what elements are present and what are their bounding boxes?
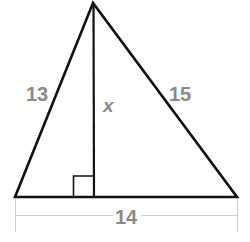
triangle-outline — [15, 3, 237, 197]
triangle-diagram: 13 15 x 14 — [0, 0, 250, 242]
side-label-left: 13 — [26, 83, 48, 105]
right-angle-marker — [74, 176, 95, 197]
altitude-line — [94, 4, 95, 197]
side-label-right: 15 — [169, 83, 191, 105]
base-label: 14 — [115, 206, 138, 228]
altitude-label: x — [102, 95, 115, 116]
